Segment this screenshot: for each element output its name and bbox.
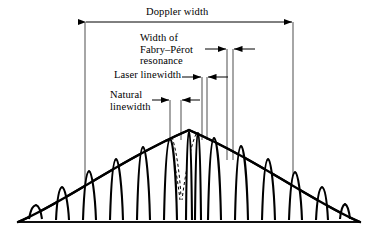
natural-linewidth-label: Natural linewidth bbox=[110, 89, 168, 112]
natural-linewidth-label-line1: Natural bbox=[110, 89, 168, 101]
fabry-perot-label-line2: Fabry–Pérot bbox=[140, 44, 226, 56]
laser-linewidth-label: Laser linewidth bbox=[114, 69, 181, 81]
fabry-perot-label-line3: resonance bbox=[140, 55, 226, 67]
mode-dips bbox=[29, 132, 350, 220]
natural-linewidth-label-line2: linewidth bbox=[110, 101, 168, 113]
doppler-width-label: Doppler width bbox=[146, 6, 208, 18]
fabry-perot-width-label: Width of Fabry–Pérot resonance bbox=[140, 32, 226, 67]
gain-profile-curve bbox=[18, 130, 360, 222]
figure-container: Doppler width Width of Fabry–Pérot reson… bbox=[0, 0, 378, 237]
fabry-perot-label-line1: Width of bbox=[140, 32, 226, 44]
